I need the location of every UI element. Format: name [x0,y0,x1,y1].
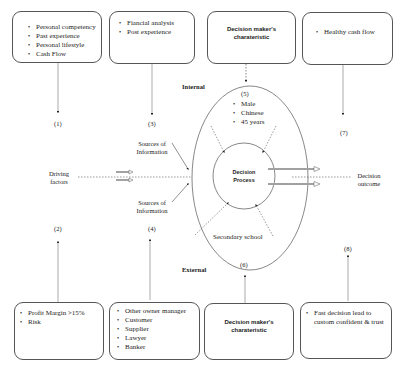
box-information-sources: Other owner manager Customer Supplier La… [109,302,200,360]
label-number-5: (5) [241,90,249,98]
decision-process-label: Decision Process [226,168,262,184]
ellipse-bottom-label: Secondary school [213,233,263,241]
list-item: Chinese [232,109,282,118]
list-item: 45 years [232,118,282,127]
box-title: Decision maker's charateristic [209,318,289,334]
list-item: Male [232,100,282,109]
list-item: Lawyer [116,334,199,343]
box-decision-maker-bottom: Decision maker's charateristic [204,303,294,360]
list-item: Fiancial analysis [118,19,194,28]
list-item: Risk [19,318,103,327]
label-number-8: (8) [344,245,352,253]
label-number-2: (2) [54,225,62,233]
box-financial-analysis: Fiancial analysis Post experience [109,11,195,64]
list-item: Healthy cash flow [315,28,392,37]
list-item: Other owner manager [116,307,199,316]
list-item: Cash Flow [27,50,101,59]
list-item: Personal lifestyle [27,41,101,50]
box-healthy-cash-flow: Healthy cash flow [302,12,393,65]
list-item: Supplier [116,325,199,334]
section-internal-label: Internal [182,83,205,90]
driving-factors-label: Driving factors [48,170,70,186]
sources-of-information-bottom: Sources of Information [134,199,170,215]
list-item: Past experience [27,32,101,41]
list-item: Profit Margin >15% [19,309,103,318]
list-item: Banker [116,343,199,352]
box-profit-risk: Profit Margin >15% Risk [14,302,104,360]
list-item: Customer [116,316,199,325]
box-title: Decision maker's charateristic [212,25,291,41]
list-item: Personal competency [27,23,101,32]
sources-arrow-top [172,143,188,169]
sources-of-information-top: Sources of Information [134,140,170,156]
box-decision-maker-top: Decision maker's charateristic [207,11,296,64]
label-number-6: (6) [240,261,248,269]
list-item: Post experience [118,28,194,37]
label-number-7: (7) [340,129,348,137]
sources-arrow-bottom [172,184,188,202]
section-external-label: External [182,266,206,273]
box-personal-factors: Personal competency Past experience Pers… [12,11,102,63]
list-item: Fast decision lead to custom confident &… [305,309,387,327]
ellipse-top-content: Male Chinese 45 years [232,100,282,128]
label-number-1: (1) [54,120,62,128]
label-number-3: (3) [148,120,156,128]
decision-outcome-label: Decision outcome [354,172,384,188]
box-fast-decision: Fast decision lead to custom confident &… [300,302,392,359]
label-number-4: (4) [148,225,156,233]
